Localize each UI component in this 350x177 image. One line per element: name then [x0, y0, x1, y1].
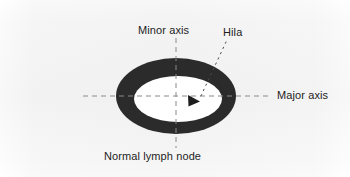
- lymph-node-medulla: [134, 76, 222, 122]
- minor-axis-label: Minor axis: [138, 25, 189, 36]
- lymph-node-figure: Minor axis Hila Major axis Normal lymph …: [0, 0, 350, 177]
- major-axis-label: Major axis: [277, 90, 328, 101]
- hila-label: Hila: [223, 27, 242, 38]
- figure-caption: Normal lymph node: [104, 151, 201, 162]
